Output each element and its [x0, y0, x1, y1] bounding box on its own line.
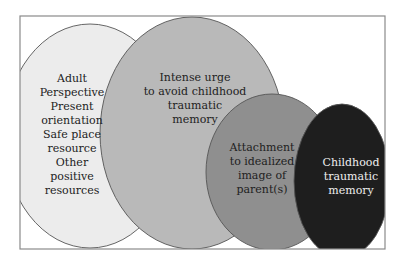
- label-line: to idealized: [230, 155, 295, 168]
- label-line: memory: [172, 113, 218, 126]
- label-line: Perspective: [40, 86, 105, 99]
- label-line: orientation: [41, 114, 103, 127]
- label-line: Adult: [56, 72, 88, 85]
- label-line: to avoid childhood: [144, 85, 247, 98]
- label-line: resource: [47, 142, 96, 155]
- label-line: Present: [51, 100, 94, 113]
- label-line: parent(s): [236, 183, 287, 196]
- label-line: Safe place: [43, 128, 101, 141]
- label-line: Attachment: [229, 141, 295, 154]
- label-line: memory: [328, 184, 374, 197]
- label-line: Childhood: [323, 156, 380, 169]
- label-line: positive: [50, 170, 94, 183]
- label-line: Other: [56, 156, 89, 169]
- label-childhood-trauma: Childhoodtraumaticmemory: [323, 156, 380, 197]
- label-line: traumatic: [168, 99, 222, 112]
- label-line: resources: [45, 184, 100, 197]
- label-idealized-attachment: Attachmentto idealizedimage ofparent(s): [229, 141, 295, 196]
- label-line: image of: [238, 169, 287, 182]
- label-line: Intense urge: [160, 71, 231, 84]
- venn-diagram: AdultPerspectivePresentorientationSafe p…: [0, 0, 402, 264]
- label-line: traumatic: [324, 170, 378, 183]
